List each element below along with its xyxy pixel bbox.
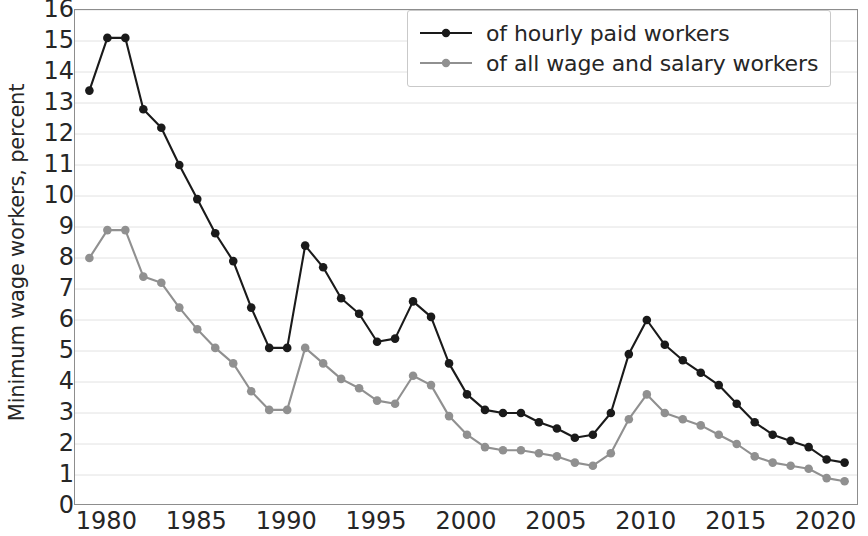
data-point <box>427 313 436 322</box>
legend-label-all-wage-salary-workers: of all wage and salary workers <box>486 51 818 76</box>
data-point <box>732 440 741 449</box>
data-point <box>175 303 184 312</box>
data-point <box>463 390 472 399</box>
data-point <box>499 409 508 418</box>
data-point <box>211 344 220 353</box>
data-point <box>589 430 598 439</box>
x-tick-label: 2005 <box>525 509 586 533</box>
data-point <box>409 372 418 381</box>
data-point <box>265 406 274 415</box>
data-point <box>319 359 328 368</box>
data-point <box>499 446 508 455</box>
data-point <box>211 229 220 238</box>
data-point <box>427 381 436 390</box>
data-point <box>103 226 112 235</box>
data-point <box>714 381 723 390</box>
legend-swatch-black-line <box>418 24 474 42</box>
data-point <box>409 297 418 306</box>
data-point <box>678 356 687 365</box>
x-tick-label: 2020 <box>795 509 856 533</box>
x-tick-label: 2015 <box>705 509 766 533</box>
data-point <box>481 443 490 452</box>
y-tick-label: 7 <box>59 276 74 300</box>
data-point <box>661 341 670 350</box>
y-tick-label: 14 <box>43 59 74 83</box>
minimum-wage-line-chart: Minimum wage workers, percent 0123456789… <box>0 0 868 536</box>
data-point <box>589 461 598 470</box>
y-tick-label: 4 <box>59 369 74 393</box>
data-point <box>175 161 184 170</box>
data-point <box>355 310 364 319</box>
y-tick-label: 1 <box>59 462 74 486</box>
data-point <box>786 461 795 470</box>
data-point <box>625 350 634 359</box>
data-point <box>121 34 130 43</box>
data-point <box>661 409 670 418</box>
data-point <box>768 430 777 439</box>
data-point <box>103 34 112 43</box>
data-point <box>283 406 292 415</box>
data-point <box>247 387 256 396</box>
y-tick-label: 11 <box>43 152 74 176</box>
x-tick-label: 1995 <box>346 509 407 533</box>
data-point <box>643 390 652 399</box>
data-point <box>804 465 813 474</box>
data-point <box>696 368 705 377</box>
data-point <box>193 325 202 334</box>
data-point <box>804 443 813 452</box>
y-tick-label: 15 <box>43 28 74 52</box>
x-tick-label: 2010 <box>615 509 676 533</box>
data-point <box>822 474 831 483</box>
data-point <box>229 257 238 266</box>
legend: of hourly paid workers of all wage and s… <box>407 10 831 87</box>
data-point <box>607 449 616 458</box>
data-point <box>571 458 580 467</box>
data-point <box>337 375 346 384</box>
series-hourly-paid-workers <box>85 34 849 467</box>
legend-label-hourly-paid-workers: of hourly paid workers <box>486 21 730 46</box>
x-tick-label: 1990 <box>256 509 317 533</box>
data-point <box>337 294 346 303</box>
data-point <box>301 241 310 250</box>
y-tick-label: 3 <box>59 400 74 424</box>
x-tick-label: 1985 <box>166 509 227 533</box>
data-point <box>373 396 382 405</box>
y-tick-label: 5 <box>59 338 74 362</box>
data-series-layer <box>85 34 849 486</box>
data-point <box>481 406 490 415</box>
x-tick-label: 2000 <box>435 509 496 533</box>
y-tick-label: 0 <box>59 493 74 517</box>
data-point <box>355 384 364 393</box>
series-all-wage-salary-workers <box>85 226 849 486</box>
legend-item-all-wage-salary-workers: of all wage and salary workers <box>418 48 818 78</box>
data-point <box>463 430 472 439</box>
data-point <box>643 316 652 325</box>
legend-swatch-gray-line <box>418 54 474 72</box>
data-point <box>607 409 616 418</box>
y-tick-label: 12 <box>43 121 74 145</box>
data-point <box>265 344 274 353</box>
data-point <box>517 446 526 455</box>
data-point <box>822 455 831 464</box>
data-point <box>85 254 94 263</box>
data-point <box>391 399 400 408</box>
data-point <box>301 344 310 353</box>
data-point <box>714 430 723 439</box>
data-point <box>445 412 454 421</box>
data-point <box>139 272 148 281</box>
data-point <box>283 344 292 353</box>
data-point <box>157 124 166 133</box>
y-axis-title: Minimum wage workers, percent <box>0 0 34 505</box>
y-tick-label: 6 <box>59 307 74 331</box>
data-point <box>750 452 759 461</box>
y-tick-label: 10 <box>43 183 74 207</box>
data-point <box>373 337 382 346</box>
data-point <box>571 434 580 443</box>
y-tick-label: 13 <box>43 90 74 114</box>
data-point <box>732 399 741 408</box>
data-point <box>517 409 526 418</box>
data-point <box>319 263 328 272</box>
legend-item-hourly-paid-workers: of hourly paid workers <box>418 18 818 48</box>
data-point <box>139 105 148 114</box>
data-point <box>121 226 130 235</box>
